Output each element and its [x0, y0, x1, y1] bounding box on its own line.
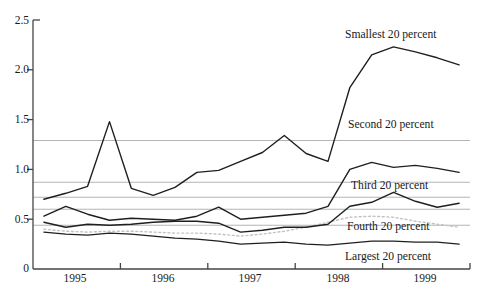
x-tick-label: 1996: [141, 271, 185, 285]
series-label-third: Third 20 percent: [351, 179, 428, 192]
income-quintile-line-chart: 2.5 2.0 1.5 1.0 0.5 0 1995 1996 1997 199…: [0, 0, 487, 299]
series-line-largest-20-percent: [44, 232, 459, 245]
y-tick-label: 0.5: [0, 212, 29, 227]
y-tick-label: 2.0: [0, 62, 29, 77]
series-label-second: Second 20 percent: [348, 118, 434, 131]
x-tick-label: 1998: [316, 271, 360, 285]
y-tick-label: 2.5: [0, 13, 29, 28]
series-label-largest: Largest 20 percent: [345, 250, 431, 263]
x-tick-label: 1995: [53, 271, 97, 285]
y-tick-label: 1.5: [0, 112, 29, 127]
x-tick-label: 1999: [403, 271, 447, 285]
series-label-smallest: Smallest 20 percent: [345, 28, 436, 41]
y-tick-label: 0: [0, 261, 29, 276]
y-tick-label: 1.0: [0, 162, 29, 177]
series-label-fourth: Fourth 20 percent: [347, 220, 429, 233]
x-tick-label: 1997: [228, 271, 272, 285]
